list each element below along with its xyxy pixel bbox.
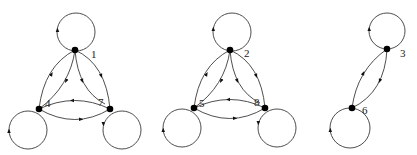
arrow-icon	[66, 79, 67, 81]
node-label-2: 2	[244, 47, 250, 59]
node-label-3: 3	[400, 47, 406, 59]
self-loop-2	[213, 13, 251, 51]
node-1	[72, 47, 79, 54]
self-loop-8	[258, 109, 296, 147]
graph-b: 2 5 8	[163, 13, 296, 147]
node-7	[107, 106, 114, 113]
node-2	[227, 47, 234, 54]
arrow-icon	[380, 79, 381, 81]
self-loop-3	[369, 13, 405, 49]
node-label-8: 8	[254, 96, 260, 108]
edge-5-to-8	[194, 108, 265, 119]
graph-c: 3 6	[330, 13, 406, 148]
self-loop-4	[9, 111, 47, 149]
node-5	[191, 105, 198, 112]
node-3	[384, 46, 391, 53]
node-label-6: 6	[362, 104, 368, 116]
self-loop-5	[163, 109, 201, 147]
node-4	[36, 106, 43, 113]
node-label-1: 1	[91, 48, 97, 60]
node-6	[349, 105, 356, 112]
edge-6-to-3	[352, 49, 387, 108]
edge-4-to-7	[39, 109, 110, 120]
arrow-icon	[206, 74, 207, 76]
node-8	[262, 105, 269, 112]
edge-3-to-6	[352, 49, 387, 108]
self-loop-7	[103, 111, 141, 149]
arrow-icon	[221, 79, 222, 81]
node-label-5: 5	[199, 97, 205, 109]
self-loop-1	[57, 13, 95, 51]
graph-a: 1 4 7	[9, 13, 141, 149]
arrow-icon	[51, 74, 52, 76]
node-label-7: 7	[98, 96, 104, 108]
graph-diagram: 1 4 7 2 5 8	[0, 0, 417, 155]
node-label-4: 4	[45, 97, 51, 109]
